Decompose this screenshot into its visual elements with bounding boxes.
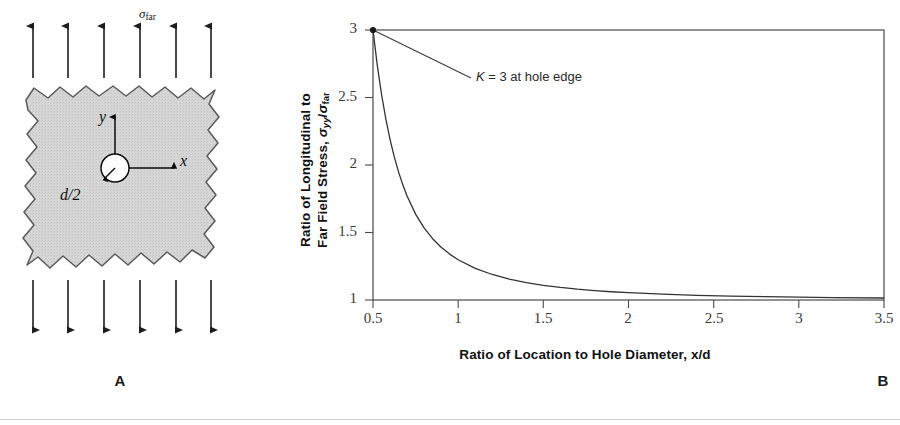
bottom-stress-arrows <box>33 280 211 330</box>
y-axis-title-line1: Ratio of Longitudinal to <box>297 20 314 320</box>
y-axis-title: Ratio of Longitudinal to Far Field Stres… <box>297 20 337 320</box>
x-tick-label-3: 3 <box>779 310 819 327</box>
radius-label: d/2 <box>60 186 80 204</box>
sigma-yy-subscript: yy <box>320 117 331 128</box>
annotation-text: = 3 at hole edge <box>485 69 582 84</box>
annotation-k-symbol: K <box>476 69 485 84</box>
sigma-far-glyph: σ <box>315 105 330 114</box>
page-bottom-rule <box>0 419 900 420</box>
annotation-leader-line <box>375 31 471 78</box>
x-tick-label-2: 2 <box>608 310 648 327</box>
x-axis-title: Ratio of Location to Hole Diameter, x/d <box>315 345 855 363</box>
far-field-stress-label: σfar <box>139 6 156 22</box>
plot-frame <box>373 30 884 300</box>
x-axis-title-italic: x/d <box>691 347 711 362</box>
sigma-subscript: far <box>145 12 156 22</box>
stress-ratio-curve <box>373 30 884 298</box>
figure-container: σfar y x d/2 A <box>0 0 900 425</box>
sigma-far-subscript: far <box>320 92 331 104</box>
x-tick-label-1p5: 1.5 <box>523 310 563 327</box>
x-axis-ticks <box>373 300 884 308</box>
panel-b-chart: 3 2.5 2 1.5 1 0.5 1 1.5 2 2.5 3 3.5 K = … <box>255 0 900 425</box>
y-axis-ticks <box>365 30 373 300</box>
x-tick-label-3p5: 3.5 <box>864 310 900 327</box>
y-axis-title-prefix: Far Field Stress, <box>315 137 330 248</box>
x-tick-label-2p5: 2.5 <box>694 310 734 327</box>
x-axis-title-prefix: Ratio of Location to Hole Diameter, <box>459 347 691 362</box>
x-axis-label: x <box>180 152 187 170</box>
y-axis-label: y <box>99 108 106 126</box>
top-stress-arrows <box>33 26 211 78</box>
x-tick-label-0p5: 0.5 <box>353 310 393 327</box>
panel-b-label: B <box>863 372 900 389</box>
hole-edge-annotation: K = 3 at hole edge <box>476 69 582 84</box>
hole-edge-marker-point <box>370 27 376 33</box>
x-tick-label-1: 1 <box>438 310 478 327</box>
ratio-slash: / <box>315 114 330 118</box>
sigma-yy-glyph: σ <box>315 128 330 137</box>
y-axis-title-line2: Far Field Stress, σyy/σfar <box>314 20 334 320</box>
panel-a-label: A <box>100 372 140 389</box>
